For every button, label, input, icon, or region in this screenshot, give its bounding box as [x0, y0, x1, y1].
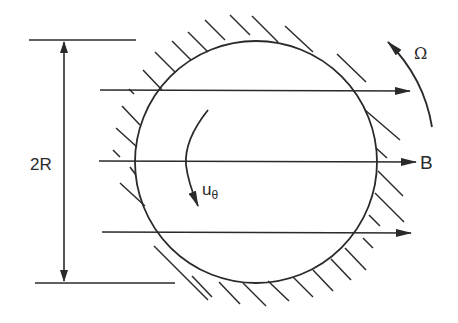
velocity-label-main: u [202, 180, 211, 199]
cylinder-diagram: 2R [0, 0, 458, 323]
velocity-label: uθ [202, 180, 218, 202]
rotation-label: Ω [414, 44, 427, 63]
diameter-label: 2R [30, 155, 52, 174]
field-label: B [420, 152, 433, 173]
field-line-bottom [102, 232, 411, 233]
velocity-label-subscript: θ [211, 188, 218, 202]
field-line-top [100, 90, 410, 91]
field-line-middle [99, 161, 416, 162]
